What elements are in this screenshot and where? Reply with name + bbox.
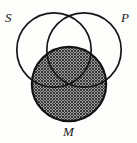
venn-diagram-svg <box>0 0 137 143</box>
circle-label-s: S <box>5 11 12 24</box>
circle-label-m: M <box>63 125 74 138</box>
venn-diagram-figure: S P M <box>0 0 137 143</box>
circle-label-p: P <box>121 11 129 24</box>
